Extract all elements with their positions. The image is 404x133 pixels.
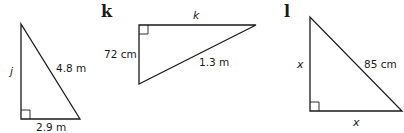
side-label-horizontal: 2.9 m	[36, 121, 66, 133]
question-label-k: k	[101, 2, 113, 21]
triangle-k-outline	[139, 25, 256, 84]
side-label-horizontal: k	[193, 9, 200, 22]
triangles-diagram: j 4.8 m 2.9 m k k 72 cm 1.3 m l x 85 cm …	[0, 0, 404, 133]
side-label-vertical: 72 cm	[104, 48, 137, 60]
side-label-hypotenuse: 1.3 m	[199, 56, 229, 68]
right-angle-marker	[310, 102, 319, 111]
side-label-vertical: x	[296, 58, 304, 71]
side-label-horizontal: x	[352, 116, 360, 129]
triangle-l: l x 85 cm x	[284, 2, 402, 129]
triangle-k: k k 72 cm 1.3 m	[101, 2, 256, 84]
side-label-hypotenuse: 4.8 m	[56, 62, 86, 74]
side-label-vertical: j	[8, 65, 14, 78]
right-angle-marker	[139, 25, 148, 34]
side-label-hypotenuse: 85 cm	[364, 58, 397, 70]
question-label-l: l	[284, 2, 290, 21]
right-angle-marker	[21, 110, 30, 119]
triangle-j: j 4.8 m 2.9 m	[8, 24, 86, 133]
